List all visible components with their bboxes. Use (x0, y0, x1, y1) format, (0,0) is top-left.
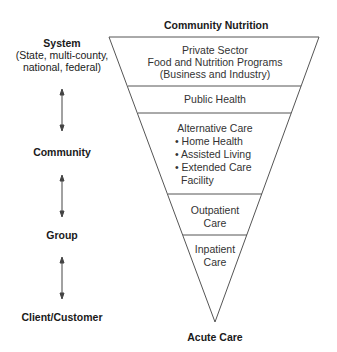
segment-private-sector-2: Food and Nutrition Programs (134, 56, 296, 69)
segment-alternative-care-title: Alternative Care (165, 122, 265, 135)
segment-alt-bullet-3: • Extended Care (175, 161, 252, 174)
bullet-assisted-living: Assisted Living (181, 148, 251, 160)
bullet-home-health: Home Health (182, 135, 243, 147)
bullet-extended-care: Extended Care (182, 161, 252, 173)
double-arrow-icon (60, 89, 64, 131)
segment-alt-bullet-2: • Assisted Living (175, 148, 251, 161)
segment-outpatient-2: Care (175, 217, 255, 230)
level-group: Group (32, 229, 92, 242)
level-system: System (20, 37, 104, 50)
segment-inpatient-2: Care (175, 256, 255, 269)
segment-public-health: Public Health (160, 93, 270, 106)
segment-private-sector-3: (Business and Industry) (134, 68, 296, 81)
segment-alt-bullet-1: • Home Health (175, 135, 243, 148)
segment-alt-continuation: Facility (181, 174, 214, 187)
segment-outpatient-1: Outpatient (175, 204, 255, 217)
title-acute-care: Acute Care (175, 331, 255, 344)
double-arrow-icon (60, 257, 64, 299)
title-community-nutrition: Community Nutrition (164, 19, 266, 32)
level-client-customer: Client/Customer (12, 311, 112, 324)
segment-inpatient-1: Inpatient (175, 243, 255, 256)
level-community: Community (22, 146, 102, 159)
double-arrow-icon (60, 175, 64, 217)
level-system-sub-2: national, federal) (12, 61, 112, 74)
level-system-sub-1: (State, multi-county, (12, 49, 112, 62)
segment-private-sector-1: Private Sector (134, 44, 296, 57)
